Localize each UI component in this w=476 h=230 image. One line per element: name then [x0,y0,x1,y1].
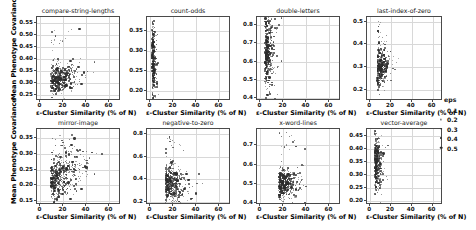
scatter-point [294,140,295,141]
legend-entry-0.1[interactable]: 0.1 [438,106,476,114]
scatter-point [277,94,278,95]
scatter-point [156,44,157,45]
scatter-point [286,190,287,191]
gridline-vertical [219,17,220,99]
plot-area [36,128,120,204]
y-tick-mark [254,79,256,80]
scatter-point [54,178,55,179]
y-tick-label: 0.2 [133,198,143,204]
x-tick-mark [411,204,412,206]
x-tick-mark [328,100,329,102]
scatter-point [65,151,68,154]
scatter-point [183,150,184,151]
scatter-point [171,185,172,186]
scatter-point [378,32,379,33]
scatter-point [379,76,380,77]
scatter-point [377,84,379,86]
x-tick-label: 60 [105,102,113,108]
scatter-point [65,79,66,80]
scatter-point [295,197,296,198]
gridline-vertical [329,129,330,203]
x-tick-mark [432,204,433,206]
scatter-point [276,29,277,30]
scatter-point [266,53,267,54]
scatter-point [292,202,293,203]
scatter-point [71,152,72,153]
scatter-point [64,88,65,89]
scatter-point [297,190,298,191]
scatter-point [394,69,395,70]
scatter-point [303,185,304,186]
scatter-point [156,40,157,41]
y-tick-label: 0.6 [133,153,143,159]
scatter-point [58,173,59,174]
scatter-point [82,173,83,174]
scatter-point [89,157,90,158]
x-tick-label: 0 [257,102,261,108]
x-tick-label: 40 [407,206,415,212]
legend-label: 0.3 [447,125,458,132]
scatter-point [60,145,61,146]
scatter-point [383,78,384,79]
scatter-point [69,60,72,63]
scatter-point [52,169,53,170]
legend-marker [440,137,442,139]
scatter-point [299,172,301,174]
scatter-point [155,97,156,98]
x-tick-mark [369,100,370,102]
scatter-point [73,185,74,186]
scatter-point [77,66,80,69]
gridline-horizontal [257,98,339,99]
scatter-point [265,86,266,87]
scatter-point [291,135,292,136]
scatter-point [86,176,87,177]
scatter-point [73,86,74,87]
scatter-point [60,189,61,190]
scatter-point [288,171,289,172]
scatter-point [288,184,289,185]
scatter-point [299,189,300,190]
y-tick-mark [144,90,146,91]
x-tick-label: 0 [367,206,371,212]
scatter-point [82,151,84,153]
scatter-point [298,177,299,178]
scatter-point [66,194,67,195]
scatter-point [392,68,393,69]
scatter-point [380,161,381,162]
gridline-horizontal [147,134,229,135]
scatter-point [384,44,385,45]
legend-entry-0.3[interactable]: 0.3 [438,125,476,133]
x-tick-label: 20 [386,206,394,212]
scatter-point [57,58,58,59]
figure-panel-grid: compare-string-lengths0.250.300.350.400.… [0,0,476,230]
y-tick-label: 0.35 [349,158,363,164]
scatter-point [72,67,73,68]
scatter-point [173,191,174,192]
legend-entry-0.4[interactable]: 0.4 [438,134,476,142]
scatter-point [387,51,388,52]
scatter-point [154,95,156,97]
scatter-point [152,50,153,51]
scatter-point [393,56,394,57]
x-tick-label: 0 [37,206,41,212]
chart-panel-x-word-lines: x-word-lines0.40.50.60.70204060ε-Cluster… [256,128,340,204]
x-tick-mark [218,204,219,206]
scatter-point [379,162,381,164]
scatter-point [267,47,269,49]
scatter-point [271,30,272,31]
legend-entry-0.2[interactable]: 0.2 [438,115,476,123]
legend-marker [440,146,443,149]
scatter-point [291,174,292,175]
scatter-point [52,93,53,94]
scatter-point [187,191,188,192]
scatter-point [176,201,177,202]
scatter-point [53,162,55,164]
scatter-point [267,66,268,67]
scatter-point [383,70,384,71]
y-tick-mark [364,174,366,175]
legend-entry-0.5[interactable]: 0.5 [438,144,476,152]
scatter-point [156,73,157,74]
x-tick-label: 20 [59,102,67,108]
y-tick-mark [34,70,36,71]
scatter-point [176,171,177,172]
